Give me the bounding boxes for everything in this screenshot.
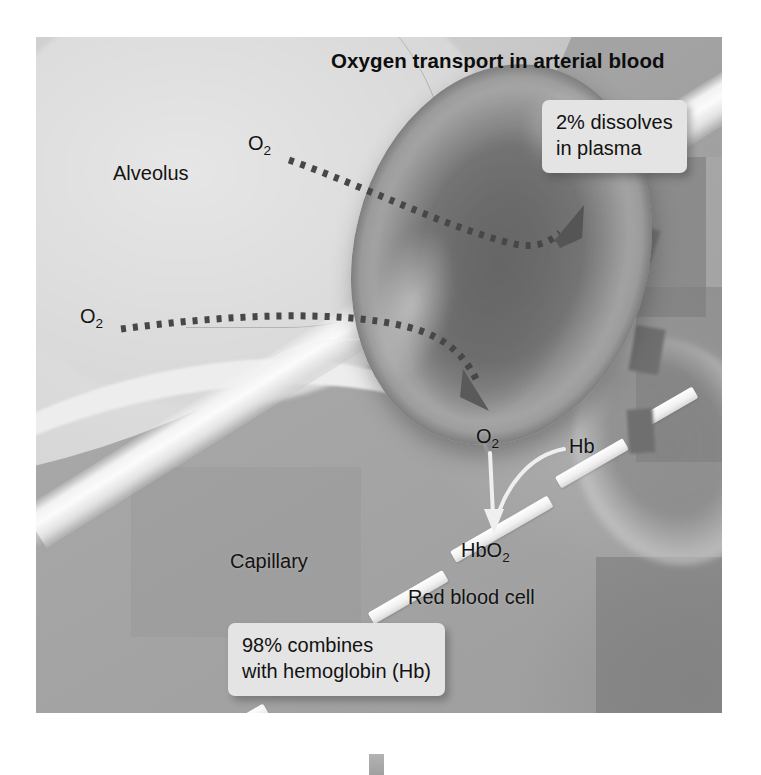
- label-hbo2-text: HbO: [461, 539, 502, 561]
- callout-hemoglobin-line2: with hemoglobin (Hb): [242, 658, 431, 684]
- label-hb: Hb: [569, 435, 595, 458]
- callout-plasma-line1: 2% dissolves: [556, 109, 673, 135]
- label-red-blood-cell: Red blood cell: [408, 586, 535, 609]
- label-o2-in-cell-subscript: 2: [492, 436, 500, 451]
- label-o2-alveolar-upper-subscript: 2: [264, 143, 272, 158]
- label-o2-alveolar-upper: O2: [248, 132, 271, 159]
- callout-hemoglobin-line1: 98% combines: [242, 632, 431, 658]
- label-o2-alveolar-lower: O2: [80, 305, 103, 332]
- label-o2-in-cell-text: O: [476, 425, 492, 447]
- label-alveolus: Alveolus: [113, 162, 189, 185]
- curved-arrow-icon: [494, 449, 564, 529]
- page-edge-mark: [369, 754, 384, 775]
- label-hbo2-subscript: 2: [502, 550, 510, 565]
- label-o2-alveolar-upper-text: O: [248, 132, 264, 154]
- down-arrow-icon: [484, 453, 504, 534]
- label-o2-alveolar-lower-text: O: [80, 305, 96, 327]
- callout-plasma-line2: in plasma: [556, 135, 673, 161]
- label-o2-alveolar-lower-subscript: 2: [96, 316, 104, 331]
- label-o2-in-cell: O2: [476, 425, 499, 452]
- callout-plasma: 2% dissolves in plasma: [542, 100, 687, 173]
- label-capillary: Capillary: [230, 550, 308, 573]
- page-title: Oxygen transport in arterial blood: [331, 49, 665, 73]
- oxygen-transport-illustration: Oxygen transport in arterial blood Alveo…: [36, 37, 722, 713]
- callout-hemoglobin: 98% combines with hemoglobin (Hb): [228, 623, 445, 696]
- label-hbo2: HbO2: [461, 539, 510, 566]
